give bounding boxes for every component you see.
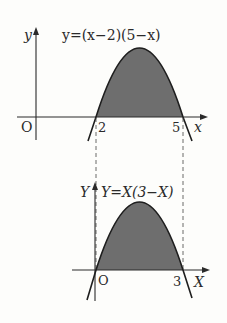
bottom-origin-label: O <box>98 273 109 288</box>
diagram-canvas: y y=(x−2)(5−x) O 2 5 x Y Y=X(3−X) O 3 X <box>0 0 227 323</box>
bottom-equation-label: Y=X(3−X) <box>101 184 173 200</box>
bottom-root-3-label: 3 <box>173 274 181 289</box>
top-x-axis-label: x <box>194 119 202 135</box>
top-equation-label: y=(x−2)(5−x) <box>61 27 161 43</box>
top-root-5-label: 5 <box>172 120 180 135</box>
bottom-y-axis-label: Y <box>80 184 91 200</box>
bottom-graph: Y Y=X(3−X) O 3 X <box>72 184 206 301</box>
top-graph: y y=(x−2)(5−x) O 2 5 x <box>17 27 204 141</box>
top-y-axis-label: y <box>23 27 33 43</box>
top-origin-label: O <box>21 119 32 135</box>
top-root-2-label: 2 <box>98 120 106 135</box>
bottom-x-axis-label: X <box>193 274 205 290</box>
